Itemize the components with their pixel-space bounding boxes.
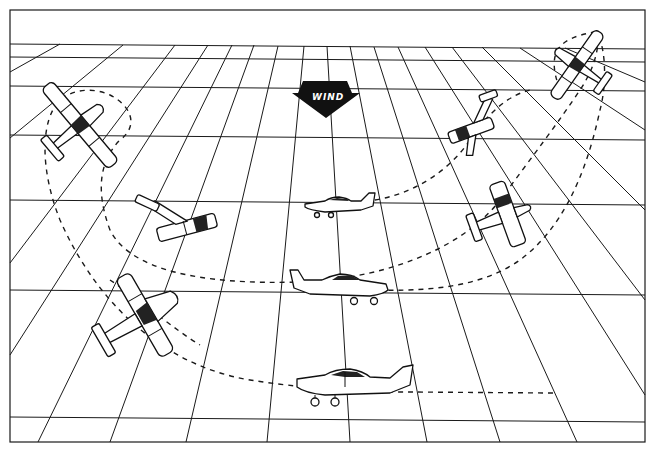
diagram-canvas: WIND — [0, 0, 653, 452]
aircraft-upper-right — [439, 89, 514, 160]
aircraft-upper-steep-left — [16, 67, 136, 191]
wind-indicator: WIND — [292, 81, 360, 118]
aircraft-mid-right — [459, 175, 542, 259]
aircraft-lower-banked-left — [77, 258, 200, 381]
wind-label: WIND — [312, 92, 344, 102]
aircraft-final-level — [297, 365, 413, 406]
aircraft-top-right-steep — [533, 17, 629, 118]
aircraft-upper-level — [305, 193, 375, 218]
maneuver-diagram: WIND — [0, 0, 653, 452]
aircraft-mid-level — [290, 270, 388, 305]
aircraft-mid-left — [133, 176, 218, 245]
